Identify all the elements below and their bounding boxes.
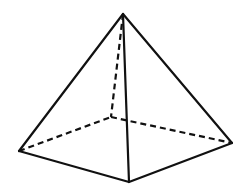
edge-left-front — [19, 151, 129, 182]
hidden-edge-apex-back — [111, 14, 123, 117]
edge-apex-front — [123, 14, 129, 182]
square-pyramid-diagram — [0, 0, 244, 191]
edge-front-right — [129, 143, 232, 182]
edge-apex-right — [123, 14, 232, 143]
visible-edges — [19, 14, 232, 182]
edge-apex-left — [19, 14, 123, 151]
